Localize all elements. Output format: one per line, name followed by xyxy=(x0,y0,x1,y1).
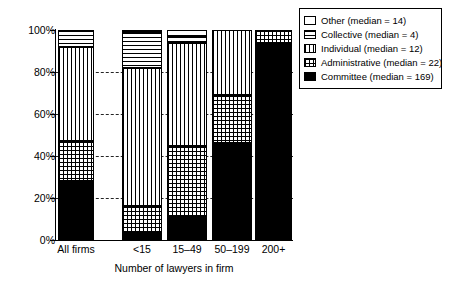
y-tick-label: 60% xyxy=(9,109,55,119)
bar-segment-collective xyxy=(59,30,93,47)
bar-all-firms[interactable] xyxy=(58,30,94,240)
y-tick-label: 20% xyxy=(9,193,55,203)
x-axis-line xyxy=(55,240,293,241)
y-tick: 60% xyxy=(0,109,55,119)
bar-segment-administrative xyxy=(213,95,251,143)
bar-50-199[interactable] xyxy=(212,30,252,240)
y-tick: 80% xyxy=(0,67,55,77)
plot-area xyxy=(55,30,292,240)
legend-swatch-horizontal-lines-icon xyxy=(304,30,316,39)
bar-segment-individual xyxy=(123,68,161,207)
bar-segment-committee xyxy=(123,232,161,240)
legend-swatch-crosshatch-icon xyxy=(304,58,316,67)
legend-swatch-white-empty-icon xyxy=(304,16,316,25)
x-tick-label: All firms xyxy=(44,243,108,255)
x-tick-label: 200+ xyxy=(241,243,306,255)
legend-item-label: Other (median = 14) xyxy=(321,16,406,26)
bar-segment-individual xyxy=(213,30,251,95)
bar-segment-committee xyxy=(168,217,206,240)
x-axis-title: Number of lawyers in firm xyxy=(55,262,293,274)
y-tick-label: 80% xyxy=(9,67,55,77)
y-tick: 20% xyxy=(0,193,55,203)
bar-segment-administrative xyxy=(256,30,291,43)
y-tick-label: 40% xyxy=(9,151,55,161)
bar-segment-committee xyxy=(256,43,291,240)
legend-item-label: Committee (median = 169) xyxy=(321,72,434,82)
bar-segment-administrative xyxy=(59,141,93,181)
bar-15-49[interactable] xyxy=(167,30,207,240)
legend-swatch-vertical-lines-icon xyxy=(304,44,316,53)
y-tick: 40% xyxy=(0,151,55,161)
bar-segment-administrative xyxy=(168,146,206,217)
y-tick-label: 100% xyxy=(9,25,55,35)
legend-swatch-solid-black-icon xyxy=(304,72,316,81)
legend-item[interactable]: Other (median = 14) xyxy=(304,14,437,27)
legend-item[interactable]: Collective (median = 4) xyxy=(304,28,437,41)
bar-segment-other xyxy=(123,30,161,32)
stacked-bar-chart: 0%20%40%60%80%100% All firms<1515–4950–1… xyxy=(0,0,450,288)
bar-segment-committee xyxy=(213,143,251,240)
bar-segment-committee xyxy=(59,181,93,240)
legend-item-label: Administrative (median = 22) xyxy=(321,58,442,68)
legend-item[interactable]: Administrative (median = 22) xyxy=(304,56,437,69)
legend-item[interactable]: Committee (median = 169) xyxy=(304,70,437,83)
y-tick: 100% xyxy=(0,25,55,35)
bar-segment-individual xyxy=(59,47,93,142)
legend-item-label: Collective (median = 4) xyxy=(321,30,418,40)
bar-200[interactable] xyxy=(255,30,292,240)
bar-segment-collective xyxy=(123,32,161,68)
bar-segment-individual xyxy=(168,43,206,146)
legend: Other (median = 14)Collective (median = … xyxy=(299,8,442,89)
bar-segment-other xyxy=(168,30,206,36)
bar-segment-collective xyxy=(168,36,206,42)
bar-15[interactable] xyxy=(122,30,162,240)
legend-item-label: Individual (median = 12) xyxy=(321,44,423,54)
bar-segment-administrative xyxy=(123,206,161,231)
legend-item[interactable]: Individual (median = 12) xyxy=(304,42,437,55)
